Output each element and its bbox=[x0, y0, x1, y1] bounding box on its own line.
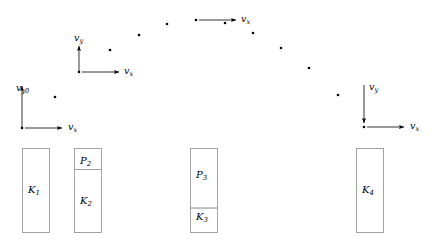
trajectory-dot bbox=[337, 94, 340, 97]
energy-bar-label: P3 bbox=[196, 170, 207, 180]
trajectory-dot bbox=[109, 49, 112, 52]
trajectory-dot bbox=[308, 67, 311, 70]
trajectory-dot bbox=[280, 47, 283, 50]
velocity-x-label: vx bbox=[241, 14, 250, 24]
trajectory-dot bbox=[224, 22, 227, 25]
trajectory-dot bbox=[138, 34, 141, 37]
energy-bar-label: K4 bbox=[362, 185, 374, 195]
projectile-energy-figure: vy0vxvyvxvxvyvxK1P2K2P3K3K4 bbox=[0, 0, 434, 245]
energy-bar-label: P2 bbox=[80, 156, 91, 166]
energy-bar-label: K2 bbox=[80, 196, 92, 206]
trajectory-dot bbox=[363, 126, 366, 129]
trajectory-dot bbox=[166, 23, 169, 26]
diagram-canvas bbox=[0, 0, 434, 245]
energy-bar-label: K1 bbox=[28, 185, 40, 195]
energy-bar-label: K3 bbox=[196, 212, 208, 222]
trajectory-dot-group bbox=[21, 19, 366, 130]
velocity-y-label: vy bbox=[369, 82, 378, 92]
trajectory-dot bbox=[252, 32, 255, 35]
velocity-x-label: vx bbox=[68, 122, 77, 132]
velocity-y-label: vy0 bbox=[16, 83, 29, 93]
trajectory-dot bbox=[195, 19, 198, 22]
trajectory-dot bbox=[54, 96, 57, 99]
velocity-y-label: vy bbox=[74, 33, 83, 43]
velocity-x-label: vx bbox=[124, 66, 133, 76]
velocity-x-label: vx bbox=[410, 121, 419, 131]
